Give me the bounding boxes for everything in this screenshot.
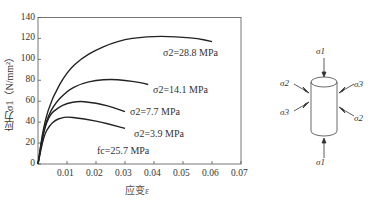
sigma1-top-label: σ1 xyxy=(316,46,325,56)
stress-arrows xyxy=(294,58,354,158)
sigma3-right-label: σ3 xyxy=(354,79,363,89)
sigma3-left-label: σ3 xyxy=(280,107,289,117)
cylinder-top xyxy=(311,77,337,87)
sigma1-bottom-label: σ1 xyxy=(316,157,325,167)
sigma2-left-label: σ2 xyxy=(280,78,289,88)
sigma2-right-label: σ2 xyxy=(354,113,363,123)
triaxial-cylinder-diagram xyxy=(0,0,372,202)
